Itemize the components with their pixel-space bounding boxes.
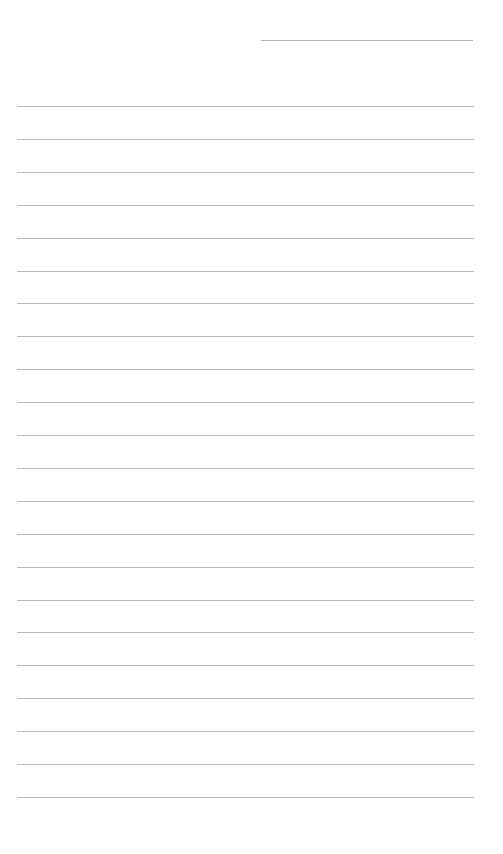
ruled-line	[17, 106, 474, 107]
ruled-line	[17, 172, 474, 173]
ruled-line	[17, 731, 474, 732]
ruled-line	[17, 600, 474, 601]
ruled-line	[17, 336, 474, 337]
ruled-line	[17, 205, 474, 206]
ruled-line	[17, 665, 474, 666]
ruled-line	[17, 797, 474, 798]
ruled-line	[17, 369, 474, 370]
ruled-line	[17, 303, 474, 304]
ruled-line	[17, 698, 474, 699]
ruled-line	[17, 402, 474, 403]
ruled-line	[17, 139, 474, 140]
ruled-line	[17, 632, 474, 633]
ruled-line	[17, 534, 474, 535]
ruled-line	[17, 764, 474, 765]
ruled-line	[17, 501, 474, 502]
ruled-line	[17, 238, 474, 239]
ruled-line	[17, 271, 474, 272]
header-write-line	[261, 40, 473, 41]
ruled-line	[17, 468, 474, 469]
ruled-line	[17, 567, 474, 568]
ruled-line	[17, 435, 474, 436]
